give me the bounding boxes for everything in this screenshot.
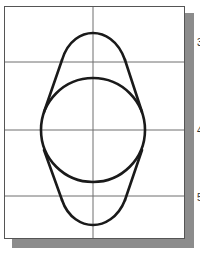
tangent-line-upper-left (44, 60, 62, 112)
step-label-4: 4 (197, 126, 200, 136)
step-label-3: 3 (197, 38, 200, 48)
tangent-line-upper-right (125, 60, 142, 112)
construction-drawing (0, 0, 200, 264)
grid (5, 7, 184, 238)
tangent-line-lower-left (44, 150, 62, 200)
step-label-5: 5 (197, 193, 200, 203)
tangent-line-lower-right (125, 150, 142, 200)
